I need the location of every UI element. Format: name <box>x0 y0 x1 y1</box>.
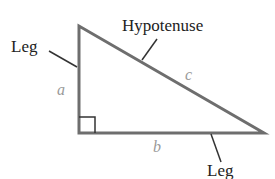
side-c-label: c <box>185 66 192 83</box>
triangle <box>79 26 264 133</box>
side-b-label: b <box>153 138 161 155</box>
leg-left-label: Leg <box>11 37 38 56</box>
hypotenuse-leader <box>142 39 157 60</box>
right-angle-marker <box>79 117 95 133</box>
hypotenuse-label: Hypotenuse <box>122 16 203 35</box>
side-a-label: a <box>57 81 65 98</box>
right-triangle-diagram: Leg Hypotenuse Leg a b c <box>0 0 275 179</box>
leg-bottom-label: Leg <box>207 161 234 179</box>
leg-left-leader <box>49 51 77 67</box>
leg-bottom-leader <box>211 134 221 162</box>
